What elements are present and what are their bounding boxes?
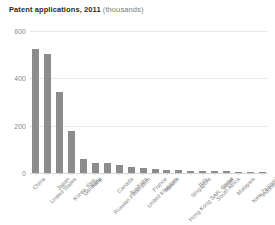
x-axis-label-slot: United Kingdom bbox=[137, 175, 149, 225]
x-axis-tickmark bbox=[131, 173, 132, 175]
bar bbox=[80, 159, 87, 173]
x-axis-tickmark bbox=[35, 173, 36, 175]
bar-slot bbox=[149, 31, 161, 173]
bar-slot bbox=[113, 31, 125, 173]
bar-slot bbox=[42, 31, 54, 173]
x-axis-label-slot: Hong Kong SAR, China bbox=[173, 175, 185, 225]
x-axis-label-slot: Israel bbox=[221, 175, 233, 225]
bar-slot bbox=[125, 31, 137, 173]
x-axis-label-slot: New Zealand bbox=[244, 175, 256, 225]
bar-slot bbox=[54, 31, 66, 173]
x-axis-label-slot: China bbox=[30, 175, 42, 225]
y-axis-tick-0: 0 bbox=[22, 170, 26, 177]
bar bbox=[92, 163, 99, 173]
bar-slot bbox=[197, 31, 209, 173]
bar-slot bbox=[232, 31, 244, 173]
x-axis-tickmark bbox=[83, 173, 84, 175]
y-axis-labels: 0200400600 bbox=[0, 31, 26, 173]
patent-applications-bar-chart: Patent applications, 2011 (thousands) 02… bbox=[0, 0, 275, 225]
x-axis-tickmark bbox=[47, 173, 48, 175]
bar bbox=[56, 92, 63, 173]
bar-slot bbox=[101, 31, 113, 173]
bar-slot bbox=[78, 31, 90, 173]
bar-slot bbox=[244, 31, 256, 173]
x-axis-label-slot: South Africa bbox=[209, 175, 221, 225]
x-axis-label-slot: Japan bbox=[54, 175, 66, 225]
x-axis-label-slot: Indonesia bbox=[256, 175, 268, 225]
bar-slot bbox=[90, 31, 102, 173]
x-axis-label-slot: Germany bbox=[78, 175, 90, 225]
x-axis-tickmark bbox=[143, 173, 144, 175]
x-axis-tickmark bbox=[107, 173, 108, 175]
x-axis-tick-label: Italy bbox=[197, 176, 209, 188]
y-axis-tick-400: 400 bbox=[14, 75, 26, 82]
x-axis-label-slot: France bbox=[149, 175, 161, 225]
x-axis-tickmark bbox=[190, 173, 191, 175]
bar-slot bbox=[161, 31, 173, 173]
bar bbox=[32, 49, 39, 173]
bar-slot bbox=[185, 31, 197, 173]
x-axis-label-slot: United States bbox=[42, 175, 54, 225]
x-axis-tickmark bbox=[95, 173, 96, 175]
bar bbox=[104, 163, 111, 173]
x-axis-label-slot: Mexico bbox=[161, 175, 173, 225]
bar-slot bbox=[137, 31, 149, 173]
x-axis-tickmark bbox=[166, 173, 167, 175]
chart-title-main: Patent applications, 2011 bbox=[9, 5, 101, 14]
bar-slot bbox=[173, 31, 185, 173]
x-axis-label-slot: Russian Federation bbox=[101, 175, 113, 225]
bar bbox=[68, 131, 75, 173]
bar-slot bbox=[30, 31, 42, 173]
bar-slot bbox=[209, 31, 221, 173]
x-axis-tickmark bbox=[178, 173, 179, 175]
chart-title-unit: (thousands) bbox=[103, 5, 144, 14]
bar bbox=[44, 54, 51, 173]
x-axis-tick-label: Indonesia bbox=[260, 176, 275, 198]
x-axis-tickmark bbox=[226, 173, 227, 175]
x-axis-label-slot: Singapore bbox=[185, 175, 197, 225]
x-axis-label-slot: Canada bbox=[113, 175, 125, 225]
x-axis-tickmark bbox=[202, 173, 203, 175]
x-axis-tickmark bbox=[119, 173, 120, 175]
chart-title: Patent applications, 2011 (thousands) bbox=[9, 5, 144, 14]
x-axis-tickmark bbox=[59, 173, 60, 175]
x-axis-label-slot: Australia bbox=[125, 175, 137, 225]
x-axis-tickmark bbox=[250, 173, 251, 175]
gridline-0 bbox=[30, 173, 268, 174]
x-axis-tickmark bbox=[238, 173, 239, 175]
x-axis-label-slot: India bbox=[90, 175, 102, 225]
x-axis-tickmark bbox=[71, 173, 72, 175]
y-axis-tick-200: 200 bbox=[14, 122, 26, 129]
bar-slot bbox=[256, 31, 268, 173]
x-axis-label-slot: Italy bbox=[197, 175, 209, 225]
x-axis-tickmark bbox=[155, 173, 156, 175]
x-axis-tickmark bbox=[214, 173, 215, 175]
bar-slot bbox=[66, 31, 78, 173]
x-axis-label-slot: Malaysia bbox=[232, 175, 244, 225]
bar-slot bbox=[221, 31, 233, 173]
bar bbox=[116, 165, 123, 173]
y-axis-tick-600: 600 bbox=[14, 28, 26, 35]
x-axis-tickmark bbox=[262, 173, 263, 175]
x-axis-label-slot: Korea, Rep. bbox=[66, 175, 78, 225]
bar-series bbox=[30, 31, 268, 173]
x-axis-labels: ChinaUnited StatesJapanKorea, Rep.German… bbox=[30, 175, 268, 225]
plot-area bbox=[30, 31, 268, 173]
